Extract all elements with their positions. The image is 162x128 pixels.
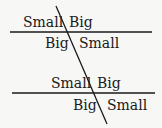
parallel-lines-diagram: Small Big Big Small Small Big Big Small	[0, 0, 162, 128]
bottom-lower-right-label: Small	[107, 97, 148, 113]
bottom-lower-left-label: Big	[73, 97, 97, 113]
top-upper-left-label: Small	[23, 14, 64, 30]
bottom-upper-right-label: Big	[97, 75, 121, 91]
top-upper-right-label: Big	[69, 14, 93, 30]
top-lower-right-label: Small	[79, 35, 120, 51]
top-lower-left-label: Big	[45, 35, 69, 51]
bottom-upper-left-label: Small	[51, 75, 92, 91]
